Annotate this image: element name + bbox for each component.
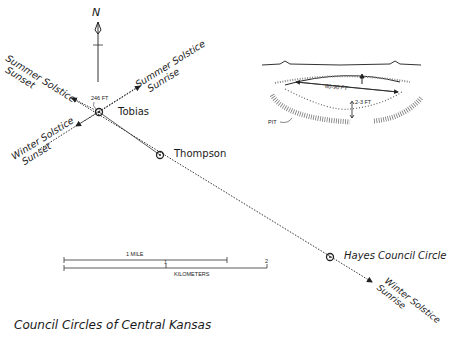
- winter-sunset-label: Winter Solstice Sunset: [9, 114, 81, 170]
- diagram-title: Council Circles of Central Kansas: [14, 318, 211, 332]
- distance-label: 246 FT: [91, 95, 109, 101]
- summer-sunset-label: Summer Solstice Sunset: [0, 52, 78, 112]
- council-circles-diagram: N Tobias Thompson Hayes Council Circle 2…: [0, 0, 463, 338]
- km-tick-2: 2: [265, 258, 268, 264]
- scale-bar: 1 MILE 1 2 KILOMETERS: [64, 251, 268, 277]
- site-marker-hayes: [327, 254, 334, 261]
- site-label-tobias: Tobias: [117, 106, 149, 117]
- tobias-thompson-line: [99, 112, 160, 155]
- winter-sunrise-label: Winter Solstice Sunrise: [375, 274, 443, 333]
- council-circle-inset: 60-90 FT 2-3 FT PIT: [262, 61, 422, 125]
- diameter-label: 60-90 FT: [325, 83, 348, 91]
- north-arrow-icon: N: [92, 6, 103, 82]
- km-tick-1: 1: [164, 259, 167, 265]
- solstice-cross-line: [38, 88, 136, 150]
- km-label: KILOMETERS: [174, 271, 210, 277]
- site-label-hayes: Hayes Council Circle: [344, 250, 446, 261]
- pit-label: PIT: [268, 119, 277, 125]
- site-label-thompson: Thompson: [173, 148, 226, 159]
- depth-label: 2-3 FT: [355, 99, 372, 105]
- summer-sunrise-label: Summer Solstice Sunrise: [133, 38, 212, 98]
- mile-label: 1 MILE: [126, 251, 144, 257]
- north-label: N: [92, 6, 100, 19]
